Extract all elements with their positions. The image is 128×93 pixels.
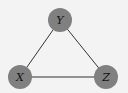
node-z-label: Z [101, 71, 110, 84]
graph-diagram: Y X Z [0, 0, 128, 93]
node-x: X [8, 65, 32, 89]
node-y: Y [48, 8, 72, 32]
node-z: Z [94, 65, 118, 89]
node-x-label: X [15, 71, 25, 84]
